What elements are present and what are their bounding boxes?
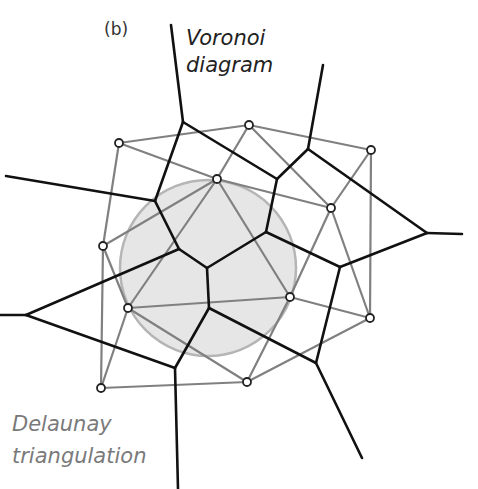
voronoi-delaunay-diagram: (b) Voronoi diagram Delaunay triangulati… [0, 0, 478, 489]
voronoi-edge [171, 25, 183, 122]
delaunay-edge [101, 382, 247, 388]
voronoi-edge [316, 363, 362, 458]
delaunay-edge [101, 246, 103, 388]
voronoi-edge [308, 65, 323, 149]
site-point [99, 242, 107, 250]
delaunay-edge [119, 125, 249, 143]
voronoi-edge [316, 267, 340, 363]
site-point [124, 304, 132, 312]
site-point [327, 204, 335, 212]
voronoi-diagram-label: Voronoi diagram [186, 25, 273, 79]
site-point [243, 378, 251, 386]
voronoi-edge [6, 176, 155, 201]
voronoi-label-line1: Voronoi [186, 25, 273, 52]
site-point [115, 139, 123, 147]
voronoi-edge [183, 122, 277, 179]
voronoi-edge [427, 233, 462, 234]
delaunay-triangulation-label: Delaunay triangulation [12, 408, 146, 472]
voronoi-label-line2: diagram [186, 52, 273, 79]
delaunay-label-line2: triangulation [12, 440, 146, 472]
site-point [286, 293, 294, 301]
site-point [97, 384, 105, 392]
voronoi-edge [277, 149, 308, 179]
voronoi-edge [175, 368, 178, 489]
site-point [366, 314, 374, 322]
voronoi-edge [340, 233, 427, 267]
site-point [213, 175, 221, 183]
delaunay-edge [370, 150, 371, 318]
site-point [367, 146, 375, 154]
site-point [245, 121, 253, 129]
delaunay-label-line1: Delaunay [12, 408, 146, 440]
panel-label: (b) [104, 19, 128, 39]
delaunay-edge [101, 308, 128, 388]
